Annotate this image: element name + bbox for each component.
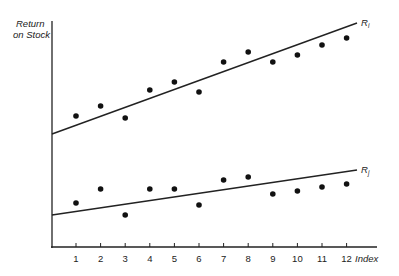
x-tick-label: 10 <box>292 253 303 264</box>
data-point <box>344 35 350 41</box>
data-point <box>270 59 276 65</box>
data-point <box>147 87 153 93</box>
lower-line-label: Rj <box>361 164 370 177</box>
x-tick-label: 5 <box>172 253 177 264</box>
data-point <box>245 174 251 180</box>
upper-line-label: Ri <box>361 17 370 29</box>
data-point <box>73 200 79 206</box>
data-point <box>98 103 104 109</box>
upper-trend-line <box>52 23 357 134</box>
data-point <box>122 212 128 218</box>
lower-trend-line <box>52 170 357 215</box>
data-point <box>196 202 202 208</box>
data-point <box>172 79 178 85</box>
data-point <box>98 186 104 192</box>
x-tick-label: 6 <box>196 253 201 264</box>
x-tick-label: 1 <box>73 253 78 264</box>
data-point <box>295 52 301 58</box>
x-tick-label: 3 <box>123 253 128 264</box>
y-axis-label-line2: on Stock <box>13 29 51 40</box>
data-point <box>73 113 79 119</box>
x-tick-label: 11 <box>317 253 327 264</box>
data-point <box>319 184 325 190</box>
data-point <box>122 115 128 121</box>
data-point <box>172 186 178 192</box>
scatter-chart: Return on Stock 123456789101112 Index Ri… <box>0 0 399 276</box>
x-axis-ticks: 123456789101112 <box>73 243 352 264</box>
upper-series-points <box>73 35 349 121</box>
data-point <box>147 186 153 192</box>
data-point <box>245 49 251 55</box>
x-tick-label: 9 <box>270 253 275 264</box>
data-point <box>344 181 350 187</box>
x-axis-label: Index <box>355 253 379 264</box>
data-point <box>221 177 227 183</box>
data-point <box>319 42 325 48</box>
data-point <box>270 191 276 197</box>
x-tick-label: 2 <box>98 253 103 264</box>
x-tick-label: 12 <box>341 253 352 264</box>
lower-series-points <box>73 174 349 218</box>
y-axis-label-line1: Return <box>16 18 45 29</box>
data-point <box>295 188 301 194</box>
data-point <box>221 59 227 65</box>
x-tick-label: 8 <box>246 253 251 264</box>
x-tick-label: 7 <box>221 253 226 264</box>
data-point <box>196 89 202 95</box>
x-tick-label: 4 <box>147 253 152 264</box>
